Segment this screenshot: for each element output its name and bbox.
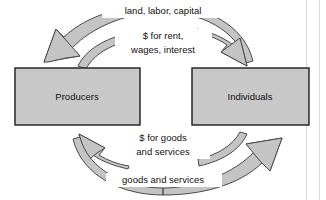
- flow-label-factor-payments-line1: $ for rent,: [143, 30, 184, 41]
- flow-label-goods-services-line1: goods and services: [122, 174, 204, 185]
- flow-label-factor-payments-line2: wages, interest: [130, 44, 195, 55]
- flow-label-resources-line1: land, labor, capital: [125, 5, 202, 16]
- flow-label-consumer-spending-line1: $ for goods: [139, 132, 187, 143]
- flow-label-consumer-spending-line2: and services: [136, 146, 190, 157]
- diagram-canvas: Producers Individuals land, labor, capit…: [0, 0, 326, 200]
- circular-flow-diagram: Producers Individuals land, labor, capit…: [0, 0, 326, 200]
- entity-label-individuals: Individuals: [228, 91, 273, 102]
- entity-label-producers: Producers: [55, 91, 99, 102]
